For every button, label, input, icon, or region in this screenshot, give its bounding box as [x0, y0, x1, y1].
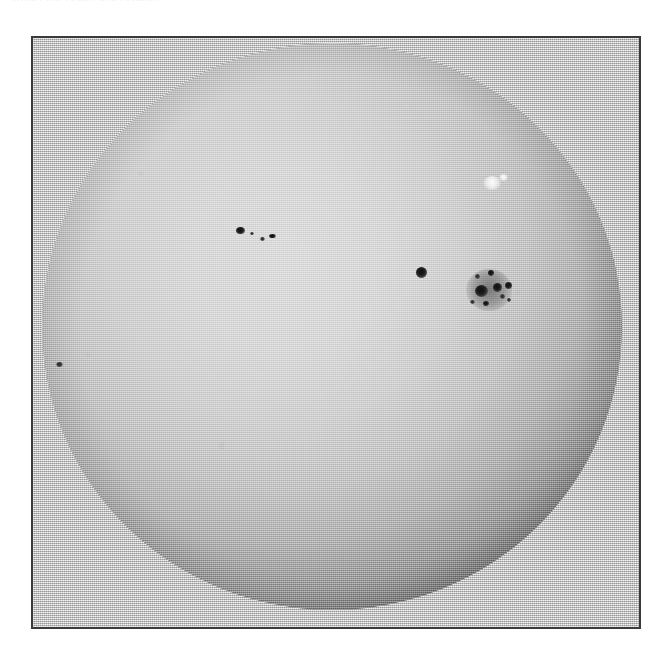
top-caption-text: which the reach this rotation	[12, 0, 161, 3]
halftone-screen-overlay	[42, 43, 622, 610]
solar-disk	[42, 43, 622, 610]
photo-frame	[31, 36, 641, 629]
top-caption-strip: which the reach this rotation	[0, 0, 670, 7]
